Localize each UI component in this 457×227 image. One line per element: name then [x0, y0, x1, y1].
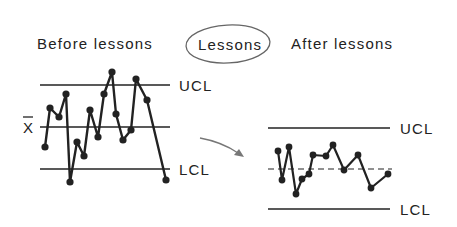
data-point [310, 152, 317, 159]
data-point [341, 167, 348, 174]
ucl-label-before: UCL [179, 77, 213, 94]
data-point [100, 90, 107, 97]
data-point [86, 106, 93, 113]
data-point [286, 144, 293, 151]
data-point [112, 110, 119, 117]
ucl-label-after: UCL [400, 120, 434, 137]
data-point [143, 96, 150, 103]
data-point [46, 104, 53, 111]
after-chart: UCL LCL [268, 120, 434, 218]
data-point [323, 153, 330, 160]
data-point [299, 176, 306, 183]
data-point [108, 68, 115, 75]
data-point [132, 75, 139, 82]
data-point [62, 90, 69, 97]
data-point [119, 136, 126, 143]
data-point [275, 148, 282, 155]
transition-arrow [200, 138, 244, 157]
arrow-head-icon [234, 149, 244, 157]
data-point [73, 138, 80, 145]
title-before-lessons: Before lessons [37, 35, 153, 52]
data-point [94, 133, 101, 140]
data-point [279, 177, 286, 184]
data-point [55, 113, 62, 120]
data-point [306, 171, 313, 178]
mean-label-xbar: X [23, 119, 34, 136]
title-lessons: Lessons [198, 36, 262, 53]
lcl-label-after: LCL [400, 201, 431, 218]
title-after-lessons: After lessons [291, 35, 393, 52]
data-point [80, 152, 87, 159]
data-point [330, 142, 337, 149]
before-chart: UCL LCL X [23, 68, 213, 185]
data-point [368, 185, 375, 192]
data-point [293, 191, 300, 198]
control-chart-diagram: Before lessons Lessons After lessons UCL… [0, 0, 457, 227]
data-point [162, 176, 169, 183]
data-point [127, 126, 134, 133]
data-point [41, 143, 48, 150]
data-point [355, 152, 362, 159]
lcl-label-before: LCL [179, 161, 210, 178]
data-point [385, 171, 392, 178]
data-point [66, 178, 73, 185]
